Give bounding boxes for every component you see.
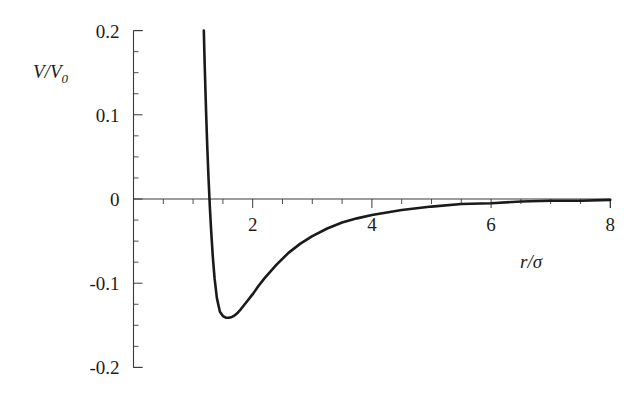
x-axis-title: r/σ [520, 251, 543, 272]
y-tick-label: 0.2 [96, 21, 120, 42]
y-tick-label: -0.1 [89, 273, 119, 294]
data-curve-group [204, 31, 610, 318]
x-tick-label: 4 [367, 214, 377, 235]
plot-canvas: 0.20.10-0.1-0.2 2468 V/V0 r/σ [0, 0, 635, 399]
y-tick-label-group: 0.20.10-0.1-0.2 [89, 21, 119, 379]
x-tick-label: 8 [606, 214, 616, 235]
x-tick-label: 6 [486, 214, 496, 235]
x-tick-label-group: 2468 [248, 214, 615, 235]
y-axis-title: V/V0 [33, 61, 69, 86]
x-tick-label: 2 [248, 214, 258, 235]
potential-curve [204, 31, 610, 318]
chart-figure: 0.20.10-0.1-0.2 2468 V/V0 r/σ [0, 0, 635, 399]
y-tick-label: -0.2 [89, 357, 119, 378]
y-tick-label: 0 [110, 189, 120, 210]
y-tick-label: 0.1 [96, 105, 120, 126]
y-tick-group [134, 31, 143, 368]
